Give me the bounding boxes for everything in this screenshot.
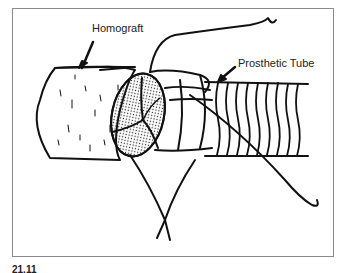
figure-number: 21.11	[12, 264, 36, 273]
homograft-label: Homograft	[92, 22, 143, 34]
surgical-illustration	[0, 0, 346, 273]
prosthetic-tube-label: Prosthetic Tube	[238, 57, 314, 69]
figure-caption: 21.11	[12, 264, 36, 273]
